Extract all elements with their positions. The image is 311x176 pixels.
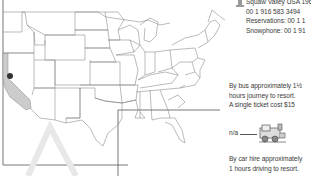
- bus-line-ticket: A single ticket cost $15: [229, 100, 302, 110]
- bus-info: By bus approximately 1½ hours journey to…: [229, 81, 302, 110]
- train-info: n/a: [229, 122, 311, 144]
- car-line-duration: 1 hours driving to resort.: [229, 164, 302, 174]
- bus-line-journey: hours journey to resort.: [229, 91, 302, 101]
- watermark-triangle: [28, 127, 76, 176]
- bus-line-duration: By bus approximately 1½: [229, 81, 302, 91]
- usa-map: [0, 0, 225, 176]
- car-line-hire: By car hire approximately: [229, 154, 302, 164]
- contact-line-resort: Squaw Valley USA 1960: [246, 0, 311, 7]
- squaw-valley-marker: [7, 73, 13, 79]
- train-availability: n/a: [229, 129, 238, 136]
- car-info: By car hire approximately 1 hours drivin…: [229, 154, 302, 173]
- location-pin-icon: [236, 0, 244, 8]
- train-pointer-line: [240, 134, 257, 135]
- contact-info: Squaw Valley USA 1960 00 1 916 583 3494 …: [246, 0, 311, 35]
- train-icon: [258, 122, 288, 144]
- contact-line-phone: 00 1 916 583 3494: [246, 7, 311, 17]
- contact-line-snowphone: Snowphone: 00 1 91: [246, 26, 311, 36]
- california-state: [3, 53, 31, 110]
- contact-line-reservations: Reservations: 00 1 1: [246, 16, 311, 26]
- state-borders: [3, 10, 225, 146]
